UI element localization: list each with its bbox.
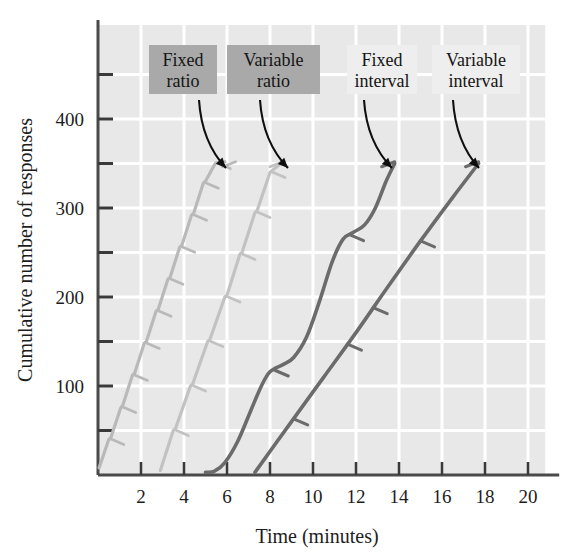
x-tick-label: 20 bbox=[519, 486, 538, 507]
cumulative-response-chart: 2468101214161820100200300400 FixedratioV… bbox=[0, 0, 568, 552]
x-tick-label: 10 bbox=[304, 486, 323, 507]
x-tick-label: 8 bbox=[265, 486, 275, 507]
y-tick-label: 100 bbox=[56, 376, 85, 397]
x-tick-label: 4 bbox=[179, 486, 189, 507]
x-tick-label: 16 bbox=[433, 486, 452, 507]
annotation-label-line2: ratio bbox=[257, 71, 290, 91]
annotation-label-line1: Fixed bbox=[162, 50, 203, 70]
x-tick-label: 12 bbox=[347, 486, 366, 507]
annotation-label-line1: Variable bbox=[244, 50, 304, 70]
y-tick-label: 400 bbox=[56, 109, 85, 130]
x-axis-title: Time (minutes) bbox=[255, 525, 378, 548]
annotation-label-line2: ratio bbox=[167, 71, 200, 91]
annotation-label-line2: interval bbox=[355, 71, 410, 91]
x-tick-label: 18 bbox=[476, 486, 495, 507]
annotation-label-line1: Fixed bbox=[361, 50, 402, 70]
x-tick-label: 14 bbox=[390, 486, 410, 507]
x-tick-label: 6 bbox=[222, 486, 232, 507]
annotation-label-line2: interval bbox=[449, 71, 504, 91]
y-tick-label: 300 bbox=[56, 198, 85, 219]
y-axis-title: Cumulative number of responses bbox=[14, 118, 37, 382]
x-tick-label: 2 bbox=[136, 486, 146, 507]
annotation-label-line1: Variable bbox=[446, 50, 506, 70]
y-tick-label: 200 bbox=[56, 287, 85, 308]
chart-figure: 2468101214161820100200300400 FixedratioV… bbox=[0, 0, 568, 552]
